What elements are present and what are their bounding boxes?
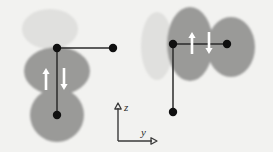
diagram-canvas: zy bbox=[0, 0, 273, 152]
left-configuration-upper-light-lobe bbox=[22, 9, 78, 49]
left-configuration-lobes bbox=[22, 9, 90, 142]
right-configuration-bottom-node-dot bbox=[169, 108, 177, 116]
left-configuration-bottom-node-dot bbox=[53, 111, 61, 119]
right-configuration-left-node-dot bbox=[169, 40, 177, 48]
z-axis-label: z bbox=[123, 101, 129, 113]
left-configuration-right-node-dot bbox=[109, 44, 117, 52]
orbital-spin-figure: zy bbox=[0, 0, 273, 152]
right-configuration-right-dark-lobe bbox=[207, 17, 255, 77]
coordinate-axes: zy bbox=[115, 101, 157, 144]
left-configuration-top-node-dot bbox=[53, 44, 61, 52]
y-axis-label: y bbox=[140, 126, 146, 138]
right-configuration-right-node-dot bbox=[223, 40, 231, 48]
